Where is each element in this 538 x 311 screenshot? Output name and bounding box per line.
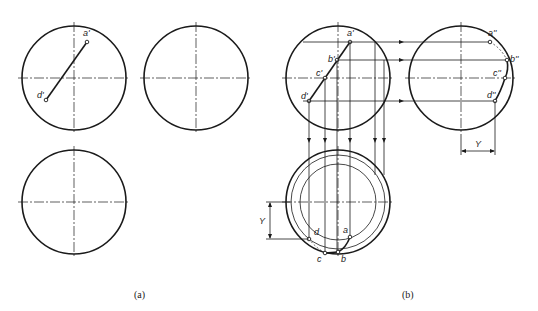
panel-b-top-view: a b c d Y — [259, 146, 394, 264]
point-b — [336, 250, 340, 254]
label-d-prime: d' — [37, 90, 44, 100]
dimension-label-y: Y — [475, 139, 482, 149]
panel-a-side-view — [140, 22, 252, 134]
label-a-prime: a' — [347, 28, 354, 38]
label-a-prime: a' — [83, 28, 90, 38]
panel-a: a' d' (a) — [18, 22, 252, 301]
point-d-prime — [44, 98, 48, 102]
caption-a: (a) — [134, 289, 145, 301]
label-b-prime: b' — [328, 54, 335, 64]
panel-a-front-view: a' d' — [18, 22, 130, 134]
dimension-label-y: Y — [259, 216, 266, 226]
point-b-double-prime — [505, 58, 509, 62]
label-b-double-prime: b'' — [510, 54, 519, 64]
panel-b-front-view: a' b' c' d' — [282, 22, 394, 134]
label-a: a — [343, 225, 348, 235]
point-a-double-prime — [488, 40, 492, 44]
curve-bd — [495, 60, 508, 101]
dimension-y-side: Y — [461, 101, 495, 155]
point-a-prime — [85, 40, 89, 44]
label-d: d — [314, 227, 320, 237]
panel-b: a' b' c' d' — [259, 22, 519, 301]
label-d-prime: d' — [301, 91, 308, 101]
line-segment-ad — [46, 42, 87, 100]
projection-lines-horizontal — [303, 40, 507, 103]
panel-a-top-view — [18, 146, 130, 258]
point-c — [323, 251, 327, 255]
label-c: c — [317, 254, 322, 264]
point-a — [348, 235, 352, 239]
label-a-double-prime: a'' — [488, 28, 497, 38]
hidden-curve-ab — [490, 42, 507, 60]
caption-b: (b) — [402, 289, 414, 301]
point-c-double-prime — [503, 76, 507, 80]
label-c-double-prime: c'' — [493, 68, 501, 78]
projection-diagram: a' d' (a) a' b' c' — [0, 0, 538, 311]
label-b: b — [341, 254, 346, 264]
dimension-y-top: Y — [259, 202, 309, 239]
label-c-prime: c' — [316, 68, 323, 78]
label-d-double-prime: d'' — [487, 90, 496, 100]
